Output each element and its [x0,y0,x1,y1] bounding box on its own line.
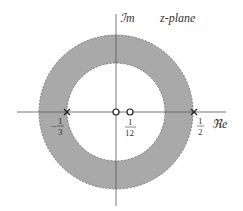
svg-text:2: 2 [198,127,203,137]
svg-text:12: 12 [125,128,134,138]
imag-axis-label: ℐm [120,11,135,25]
svg-text:1: 1 [128,117,133,127]
label-one-twelfth: 1 12 [125,117,136,138]
plane-title: z-plane [159,11,196,25]
svg-text:1: 1 [58,116,63,126]
svg-text:−: − [51,121,57,132]
svg-text:1: 1 [198,116,203,126]
z-plane-diagram: ℐm z-plane ℜe − 1 3 1 12 1 2 [0,0,243,211]
label-half: 1 2 [197,116,204,137]
svg-text:3: 3 [58,127,63,137]
real-axis-label: ℜe [212,117,228,131]
zero-marker-twelfth [127,109,133,115]
zero-marker-origin [113,109,119,115]
